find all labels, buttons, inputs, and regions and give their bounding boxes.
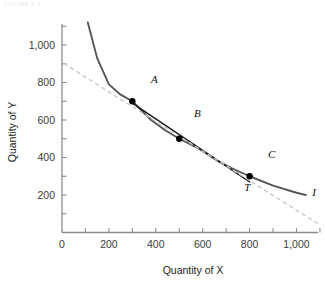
axes (62, 24, 318, 233)
y-tick-label: 800 (37, 76, 55, 88)
x-tick-label: 400 (147, 238, 165, 250)
annotation-tangent-line-label: T (244, 181, 251, 193)
x-tick-label: 800 (241, 238, 259, 250)
data-point-label-c: C (268, 148, 276, 160)
x-axis-tick-labels: 02004006008001,000 (59, 238, 310, 250)
data-point-label-b: B (194, 107, 201, 119)
y-tick-label: 1,000 (29, 39, 55, 51)
y-axis-title: Quantity of Y (6, 102, 18, 163)
data-point-label-a: A (150, 73, 158, 85)
figure-container: FIGURE 8.4 02004006008001,000 2004006008… (0, 0, 325, 281)
y-tick-label: 200 (37, 189, 55, 201)
axis-ticks (62, 26, 320, 232)
y-axis-tick-labels: 2004006008001,000 (29, 39, 55, 201)
data-points: ABC (129, 73, 276, 179)
x-tick-label: 1,000 (283, 238, 309, 250)
series-path-t (132, 103, 249, 182)
x-tick-label: 0 (59, 238, 65, 250)
x-tick-label: 200 (100, 238, 118, 250)
annotation-indifference-curve-label: I (311, 186, 317, 198)
data-point-a (129, 98, 135, 104)
y-tick-label: 400 (37, 151, 55, 163)
data-series (64, 23, 320, 226)
data-point-b (176, 136, 182, 142)
x-axis-title: Quantity of X (163, 264, 224, 276)
indifference-curve-plot: 02004006008001,000 2004006008001,000 ABC… (0, 0, 325, 281)
y-tick-label: 600 (37, 114, 55, 126)
x-tick-label: 600 (194, 238, 212, 250)
data-point-c (246, 173, 252, 179)
series-path-budget-line (64, 64, 320, 225)
